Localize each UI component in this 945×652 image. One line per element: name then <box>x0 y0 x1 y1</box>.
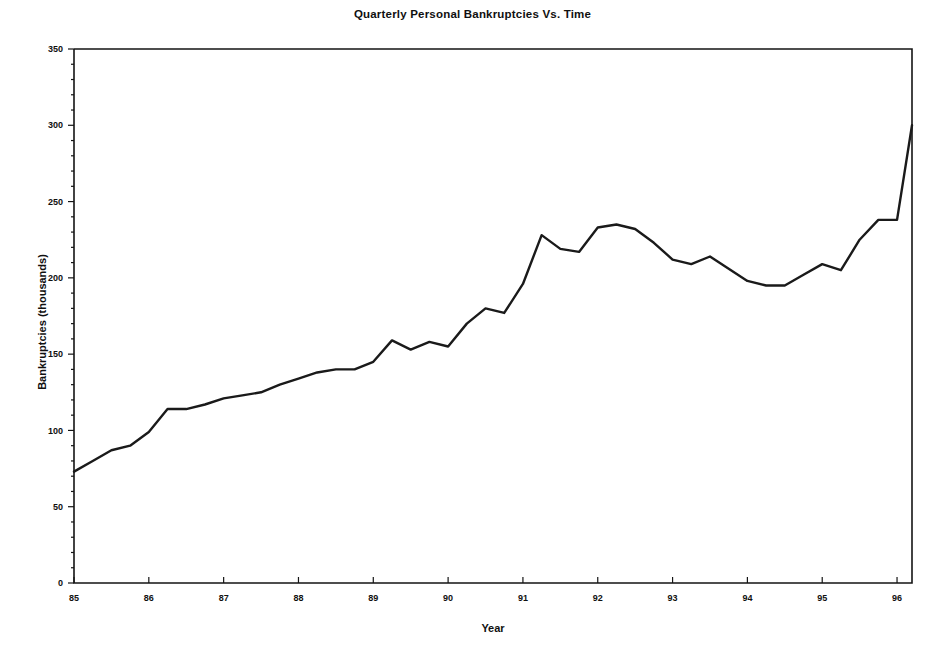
x-tick-label: 85 <box>69 593 79 603</box>
y-tick-label: 300 <box>48 120 63 130</box>
x-tick-label: 95 <box>817 593 827 603</box>
x-tick-label: 86 <box>144 593 154 603</box>
x-tick-label: 92 <box>593 593 603 603</box>
x-tick-label: 94 <box>742 593 752 603</box>
y-tick-label: 350 <box>48 44 63 54</box>
plot-area: 050100150200250300350 858687888990919293… <box>0 0 945 652</box>
y-axis-ticks: 050100150200250300350 <box>48 44 74 588</box>
x-tick-label: 89 <box>368 593 378 603</box>
x-tick-label: 87 <box>219 593 229 603</box>
chart-figure: Quarterly Personal Bankruptcies Vs. Time… <box>0 0 945 652</box>
y-tick-label: 50 <box>53 502 63 512</box>
y-tick-label: 150 <box>48 349 63 359</box>
x-tick-label: 88 <box>293 593 303 603</box>
data-series-line <box>74 125 912 471</box>
x-tick-label: 93 <box>668 593 678 603</box>
x-axis-ticks: 858687888990919293949596 <box>69 577 902 603</box>
axis-frame <box>74 49 912 583</box>
y-tick-label: 100 <box>48 426 63 436</box>
y-tick-label: 250 <box>48 197 63 207</box>
y-tick-label: 0 <box>58 578 63 588</box>
x-tick-label: 96 <box>892 593 902 603</box>
y-tick-label: 200 <box>48 273 63 283</box>
x-tick-label: 90 <box>443 593 453 603</box>
x-tick-label: 91 <box>518 593 528 603</box>
